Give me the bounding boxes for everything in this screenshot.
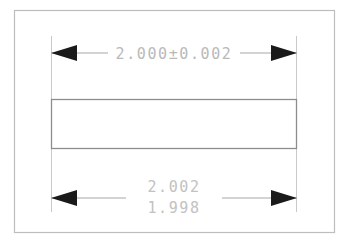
top-dimension-arrow-right xyxy=(271,45,297,61)
top-dimension-text: 2.000±0.002 xyxy=(116,45,233,63)
bottom-dimension-lower-limit-text: 1.998 xyxy=(147,199,200,217)
engineering-drawing: 2.000±0.002 2.002 1.998 xyxy=(0,0,348,249)
bottom-dimension-arrow-right xyxy=(271,190,297,206)
bottom-dimension-group: 2.002 1.998 xyxy=(51,178,297,217)
drawing-canvas: 2.000±0.002 2.002 1.998 xyxy=(0,0,348,249)
top-dimension-arrow-left xyxy=(51,45,77,61)
bottom-dimension-upper-limit-text: 2.002 xyxy=(147,178,200,196)
rectangular-part-outline xyxy=(52,100,297,149)
bottom-dimension-arrow-left xyxy=(51,190,77,206)
top-dimension-group: 2.000±0.002 xyxy=(51,45,297,63)
